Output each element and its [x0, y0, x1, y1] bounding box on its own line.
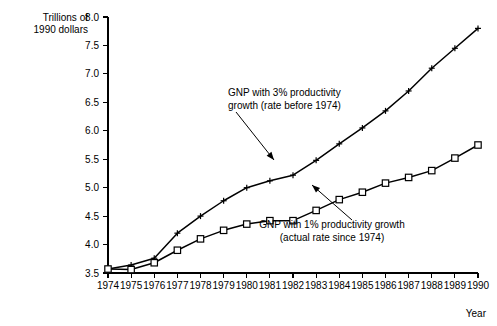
x-axis-tick-label: 1983 [305, 280, 328, 291]
data-point-marker [313, 207, 319, 213]
x-axis-tick-label: 1987 [398, 280, 421, 291]
x-axis-tick-label: 1989 [444, 280, 467, 291]
x-axis-tick-label: 1988 [421, 280, 444, 291]
data-point-marker [359, 189, 365, 195]
data-series [105, 142, 481, 273]
y-axis-tick-label: 3.5 [85, 268, 99, 279]
y-axis-tick-label: 5.0 [85, 182, 99, 193]
data-point-marker [105, 266, 111, 272]
data-point-marker [475, 142, 481, 148]
data-point-marker [174, 247, 180, 253]
data-point-marker [336, 196, 342, 202]
gnp-productivity-line-chart: Trillions of 1990 dollars 3.54.04.55.05.… [0, 0, 497, 326]
y-axis-tick-label: 4.5 [85, 211, 99, 222]
y-axis-tick-label: 6.5 [85, 97, 99, 108]
x-axis-tick-label: 1990 [467, 280, 490, 291]
data-point-marker [452, 155, 458, 161]
y-axis-title-line-2: 1990 dollars [34, 24, 88, 35]
y-axis-tick-label: 5.5 [85, 154, 99, 165]
x-axis-tick-label: 1975 [120, 280, 143, 291]
annotation-lower: GNP with 1% productivity growth(actual r… [259, 185, 404, 243]
chart-figure: Trillions of 1990 dollars 3.54.04.55.05.… [0, 0, 497, 326]
annotation-upper-arrowhead [267, 152, 274, 160]
x-axis-tick-label: 1977 [166, 280, 189, 291]
x-axis-tick-label: 1974 [97, 280, 120, 291]
annotation-lower-line-2: (actual rate since 1974) [280, 232, 385, 243]
x-axis-tick-label: 1986 [374, 280, 397, 291]
x-axis: 1974197519761977197819791980198119821983… [97, 273, 490, 291]
data-point-marker [382, 180, 388, 186]
y-axis-tick-label: 6.0 [85, 125, 99, 136]
x-axis-tick-label: 1979 [213, 280, 236, 291]
y-axis: 3.54.04.55.05.56.06.57.07.58.0 [85, 12, 108, 279]
data-point-marker [405, 174, 411, 180]
annotations-group: GNP with 3% productivitygrowth (rate bef… [228, 87, 405, 243]
y-axis-tick-label: 7.0 [85, 68, 99, 79]
data-point-marker [197, 236, 203, 242]
x-axis-tick-label: 1976 [143, 280, 166, 291]
annotation-lower-line-1: GNP with 1% productivity growth [259, 219, 404, 230]
y-axis-tick-label: 4.0 [85, 239, 99, 250]
annotation-upper: GNP with 3% productivitygrowth (rate bef… [228, 87, 341, 160]
x-axis-tick-label: 1981 [259, 280, 282, 291]
data-point-marker [429, 167, 435, 173]
x-axis-tick-label: 1980 [236, 280, 259, 291]
y-axis-title: Trillions of 1990 dollars [34, 12, 89, 35]
series-line-2 [108, 145, 478, 270]
x-axis-tick-label: 1985 [351, 280, 374, 291]
y-axis-title-line-1: Trillions of [43, 12, 88, 23]
y-axis-tick-label: 8.0 [85, 12, 99, 23]
y-axis-tick-label: 7.5 [85, 40, 99, 51]
annotation-upper-line-1: GNP with 3% productivity [228, 87, 341, 98]
data-point-marker [128, 266, 134, 272]
x-axis-title: Year [466, 308, 487, 319]
x-axis-tick-label: 1984 [328, 280, 351, 291]
x-axis-tick-label: 1978 [189, 280, 212, 291]
data-point-marker [220, 227, 226, 233]
x-axis-tick-label: 1982 [282, 280, 305, 291]
data-point-marker [151, 260, 157, 266]
annotation-upper-leader-line [236, 112, 274, 160]
annotation-upper-line-2: growth (rate before 1974) [228, 100, 341, 111]
data-point-marker [244, 221, 250, 227]
